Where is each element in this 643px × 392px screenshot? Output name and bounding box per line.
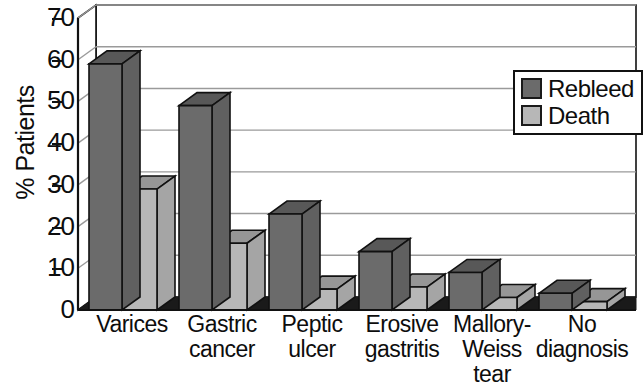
legend-label-rebleed: Rebleed bbox=[548, 77, 634, 101]
x-tick-label-3: Erosivegastritis bbox=[351, 312, 453, 362]
x-tick-label-line: gastritis bbox=[351, 337, 453, 362]
bar-death-0-side bbox=[157, 176, 175, 310]
x-tick-label-line: Weiss bbox=[441, 337, 543, 362]
chart-legend: Rebleed Death bbox=[513, 70, 643, 135]
bar-rebleed-0-side bbox=[122, 51, 140, 310]
x-tick-label-0: Varices bbox=[81, 312, 183, 337]
bar-rebleed-4-front bbox=[449, 272, 482, 310]
bar-death-1-side bbox=[247, 230, 265, 310]
legend-item-rebleed: Rebleed bbox=[521, 75, 634, 102]
x-tick-label-line: No bbox=[531, 312, 633, 337]
bar-rebleed-5-front bbox=[539, 293, 572, 310]
legend-swatch-death bbox=[521, 105, 542, 126]
x-tick-label-line: Gastric bbox=[171, 312, 273, 337]
x-tick-label-line: ulcer bbox=[261, 337, 363, 362]
bar-rebleed-3-side bbox=[392, 239, 410, 310]
x-tick-label-line: Mallory- bbox=[441, 312, 543, 337]
bar-rebleed-1-side bbox=[212, 93, 230, 310]
legend-item-death: Death bbox=[521, 102, 634, 129]
bar-rebleed-2-front bbox=[269, 214, 302, 310]
x-tick-label-5: Nodiagnosis bbox=[531, 312, 633, 362]
x-tick-label-line: Peptic bbox=[261, 312, 363, 337]
bar-rebleed-0-front bbox=[89, 64, 122, 310]
legend-swatch-rebleed bbox=[521, 78, 542, 99]
x-tick-label-line: Erosive bbox=[351, 312, 453, 337]
bar-rebleed-2-side bbox=[302, 201, 320, 310]
bar-rebleed-3-front bbox=[359, 252, 392, 310]
x-axis-tick-labels: VaricesGastriccancerPepticulcerErosivega… bbox=[0, 312, 639, 392]
x-tick-label-4: Mallory-Weisstear bbox=[441, 312, 543, 387]
legend-label-death: Death bbox=[548, 104, 610, 128]
x-tick-label-line: Varices bbox=[81, 312, 183, 337]
x-tick-label-1: Gastriccancer bbox=[171, 312, 273, 362]
x-tick-label-line: tear bbox=[441, 362, 543, 387]
bar-rebleed-1-front bbox=[179, 106, 212, 310]
x-tick-label-2: Pepticulcer bbox=[261, 312, 363, 362]
x-tick-label-line: diagnosis bbox=[531, 337, 633, 362]
x-tick-label-line: cancer bbox=[171, 337, 273, 362]
